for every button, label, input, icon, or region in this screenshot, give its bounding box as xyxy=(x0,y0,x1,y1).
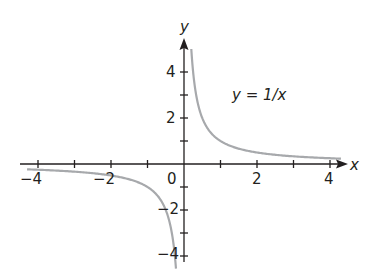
x-tick-label-neg2: −2 xyxy=(93,170,115,188)
y-tick-label-neg4: −4 xyxy=(157,245,179,263)
x-tick-label-4: 4 xyxy=(324,170,334,188)
x-axis-label: x xyxy=(349,156,359,174)
y-tick-label-neg2: −2 xyxy=(157,200,179,218)
x-tick-label-neg4: −4 xyxy=(20,170,42,188)
y-tick-label-4: 4 xyxy=(166,63,176,81)
y-tick-label-2: 2 xyxy=(166,109,176,127)
origin-label: 0 xyxy=(167,170,177,188)
x-tick-label-2: 2 xyxy=(252,170,262,188)
y-axis xyxy=(180,38,189,262)
reciprocal-function-plot: x y −4 −2 0 2 4 4 2 −2 −4 y = 1/x xyxy=(0,0,365,278)
y-axis-label: y xyxy=(179,18,190,36)
equation-label: y = 1/x xyxy=(231,86,287,104)
